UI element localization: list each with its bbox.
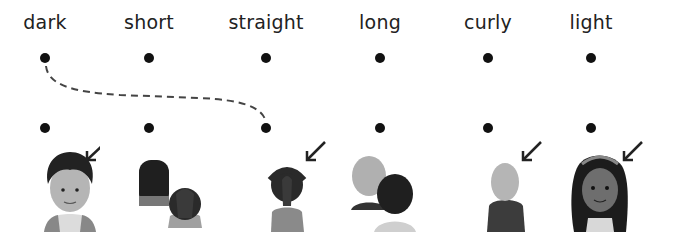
picture-child-straight-hair bbox=[262, 140, 332, 232]
picture-girl-curly-hair bbox=[568, 140, 648, 232]
picture-two-children-light-dark-hair bbox=[348, 154, 428, 232]
picture-two-children-dark-hair bbox=[136, 154, 216, 232]
arrow-icon bbox=[307, 142, 325, 160]
arrow-icon bbox=[624, 142, 642, 160]
picture-boy-dark-hair bbox=[40, 140, 100, 232]
arrow-icon bbox=[523, 142, 541, 160]
picture-child-light-hair bbox=[482, 140, 552, 232]
arrow-icon bbox=[87, 142, 100, 160]
